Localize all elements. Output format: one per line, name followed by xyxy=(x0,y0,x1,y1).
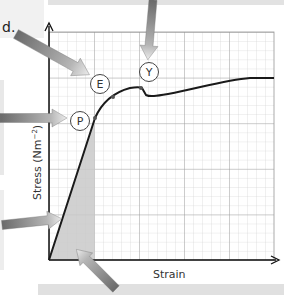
svg-text:Y: Y xyxy=(145,66,153,79)
y-axis-label: Stress (Nm−2) xyxy=(31,125,44,200)
stress-strain-diagram: E Y P Strain Stress (Nm−2) xyxy=(0,0,284,295)
svg-text:Stress (Nm−2): Stress (Nm−2) xyxy=(31,125,44,200)
svg-text:P: P xyxy=(77,115,84,128)
marker-e: E xyxy=(91,75,110,94)
point-p-dot xyxy=(93,116,97,120)
point-e-dot xyxy=(111,95,115,99)
marker-y: Y xyxy=(140,63,159,82)
svg-text:E: E xyxy=(97,78,104,91)
marker-p: P xyxy=(71,112,90,131)
point-y-dot xyxy=(139,86,143,90)
x-axis-label: Strain xyxy=(153,268,186,281)
